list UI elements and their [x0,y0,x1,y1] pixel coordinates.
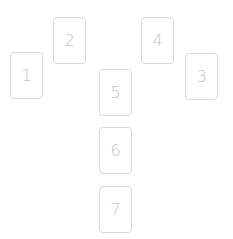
card-position-number: 6 [110,143,120,159]
card-position-number: 2 [64,33,74,49]
card-slot-7[interactable]: 7 [99,186,132,233]
card-slot-3[interactable]: 3 [185,53,218,100]
card-spread-layout: 1 2 3 4 5 6 7 [0,0,233,239]
card-position-number: 5 [110,85,120,101]
card-slot-1[interactable]: 1 [10,52,43,99]
card-slot-6[interactable]: 6 [99,127,132,174]
card-slot-2[interactable]: 2 [53,17,86,64]
card-slot-5[interactable]: 5 [99,69,132,116]
card-position-number: 3 [196,69,206,85]
card-position-number: 1 [21,68,31,84]
card-position-number: 7 [110,202,120,218]
card-position-number: 4 [152,33,162,49]
card-slot-4[interactable]: 4 [141,17,174,64]
